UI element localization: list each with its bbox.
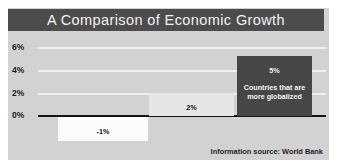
- source-note: Information source: World Bank: [211, 147, 323, 156]
- y-axis-tick-2pct: 2%: [8, 89, 42, 98]
- bar-label-group-more-developed: 2% More developed countries: [164, 93, 219, 116]
- y-axis-tick-0pct: 0%: [8, 111, 42, 120]
- bar-label-group-less-globalized: -1% Countries that are less globalized: [72, 117, 134, 141]
- chart-title-band: A Comparison of Economic Growth: [8, 9, 324, 31]
- plot-area: 6% 4% 2% 0% 5% Countries that are more g…: [8, 33, 329, 146]
- bar-value-less-globalized: -1%: [72, 128, 134, 136]
- bar-category-more-globalized: Countries that are more globalized: [244, 84, 306, 101]
- bar-more-developed-countries: 2% More developed countries: [149, 93, 234, 116]
- y-axis-tick-6pct: 6%: [8, 43, 42, 52]
- bar-value-more-globalized: 5%: [244, 67, 306, 75]
- chart-title: A Comparison of Economic Growth: [47, 12, 285, 28]
- y-axis-tick-4pct: 4%: [8, 66, 42, 75]
- gridline-6pct: [38, 47, 326, 49]
- bar-value-more-developed: 2%: [164, 104, 219, 112]
- bar-label-group-more-globalized: 5% Countries that are more globalized: [244, 56, 306, 109]
- bar-countries-less-globalized: -1% Countries that are less globalized: [58, 117, 148, 141]
- economic-growth-chart-figure: A Comparison of Economic Growth 6% 4% 2%…: [0, 0, 337, 168]
- bar-countries-more-globalized: 5% Countries that are more globalized: [237, 56, 312, 116]
